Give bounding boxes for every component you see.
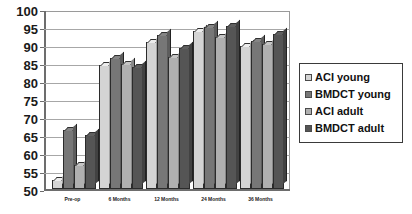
bar-group: 6 Months <box>96 11 146 189</box>
plot-area: Pre-op6 Months12 Months24 Months36 Month… <box>44 11 290 191</box>
y-axis-tick-label: 50 <box>24 185 38 198</box>
x-axis-category-label: 12 Months <box>143 197 190 202</box>
bar[interactable] <box>262 44 273 189</box>
y-axis-tick-label: 60 <box>24 149 38 162</box>
bar[interactable] <box>273 34 284 189</box>
bar[interactable] <box>204 27 215 189</box>
legend-swatch-icon <box>305 91 312 98</box>
x-axis-line <box>44 189 290 191</box>
bar[interactable] <box>74 165 85 189</box>
bar[interactable] <box>121 64 132 189</box>
legend-items: ACI youngBMDCT youngACI adultBMDCT adult <box>305 69 398 137</box>
legend-item[interactable]: ACI young <box>305 69 398 86</box>
bar[interactable] <box>146 42 157 189</box>
y-axis-tick <box>40 155 44 156</box>
bar-group: 24 Months <box>190 11 240 189</box>
bar-group: 36 Months <box>237 11 287 189</box>
bar[interactable] <box>226 26 237 189</box>
y-axis-tick <box>40 29 44 30</box>
y-axis-tick-label: 55 <box>24 167 38 180</box>
y-axis-tick-label: 65 <box>24 131 38 144</box>
y-axis-tick-label: 90 <box>24 41 38 54</box>
y-axis-labels: 10095908580757065605550 <box>0 11 38 191</box>
y-axis-tick <box>40 47 44 48</box>
legend-item[interactable]: BMDCT adult <box>305 120 398 137</box>
y-axis-tick-label: 85 <box>24 59 38 72</box>
x-axis-category-label: 36 Months <box>237 197 284 202</box>
bar[interactable] <box>179 48 190 189</box>
bar[interactable] <box>99 65 110 189</box>
y-axis-tick-label: 100 <box>16 5 38 18</box>
legend-swatch-icon <box>305 108 312 115</box>
legend-item-label: BMDCT adult <box>315 123 384 134</box>
bar-group: 12 Months <box>143 11 193 189</box>
bar[interactable] <box>52 180 63 189</box>
bar[interactable] <box>215 37 226 189</box>
legend-item[interactable]: ACI adult <box>305 103 398 120</box>
bar[interactable] <box>85 135 96 189</box>
y-axis-tick <box>40 119 44 120</box>
y-axis-tick <box>40 173 44 174</box>
x-axis-category-label: 24 Months <box>190 197 237 202</box>
bar-group: Pre-op <box>49 11 99 189</box>
y-axis-tick-label: 70 <box>24 113 38 126</box>
legend-item[interactable]: BMDCT young <box>305 86 398 103</box>
y-axis-tick <box>40 191 44 192</box>
x-axis-category-label: Pre-op <box>49 197 96 202</box>
y-axis-tick <box>40 101 44 102</box>
bar[interactable] <box>63 130 74 189</box>
bar[interactable] <box>168 57 179 189</box>
bar[interactable] <box>110 58 121 189</box>
y-axis-tick-label: 75 <box>24 95 38 108</box>
legend-item-label: ACI young <box>315 72 370 83</box>
legend-swatch-icon <box>305 125 312 132</box>
legend-item-label: ACI adult <box>315 106 363 117</box>
bar-chart: 10095908580757065605550 Pre-op6 Months12… <box>0 0 412 214</box>
y-axis-tick <box>40 65 44 66</box>
legend-swatch-icon <box>305 74 312 81</box>
x-axis-category-label: 6 Months <box>96 197 143 202</box>
y-axis-tick <box>40 137 44 138</box>
legend: ACI youngBMDCT youngACI adultBMDCT adult <box>299 63 403 143</box>
y-axis-tick <box>40 83 44 84</box>
y-axis-tick <box>40 11 44 12</box>
bar[interactable] <box>251 41 262 189</box>
bar[interactable] <box>157 35 168 189</box>
bar[interactable] <box>240 46 251 189</box>
y-axis-tick-label: 80 <box>24 77 38 90</box>
legend-item-label: BMDCT young <box>315 89 391 100</box>
y-axis-tick-label: 95 <box>24 23 38 36</box>
bar[interactable] <box>132 67 143 189</box>
bar[interactable] <box>193 31 204 189</box>
